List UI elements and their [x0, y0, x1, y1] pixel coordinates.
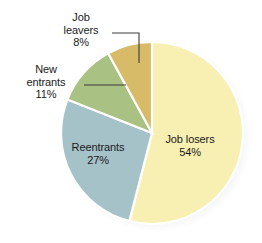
slice-label-job-leavers-name2: leavers [50, 24, 112, 37]
slice-label-job-losers: Job losers 54% [150, 133, 230, 158]
slice-label-job-losers-value: 54% [150, 146, 230, 159]
slice-label-reentrants-name: Reentrants [58, 141, 138, 154]
pie-chart-screenshot: Job leavers 8% New entrants 11% Reentran… [0, 0, 262, 243]
slice-label-new-entrants-name2: entrants [8, 76, 84, 89]
slice-label-job-losers-name: Job losers [150, 133, 230, 146]
slice-label-reentrants-value: 27% [58, 154, 138, 167]
pie-chart-graphic [0, 0, 262, 243]
slice-label-new-entrants-name: New [8, 63, 84, 76]
slice-label-job-leavers: Job leavers 8% [50, 11, 112, 49]
slice-label-job-leavers-value: 8% [50, 36, 112, 49]
slice-label-reentrants: Reentrants 27% [58, 141, 138, 166]
slice-label-new-entrants-value: 11% [8, 88, 84, 101]
slice-label-job-leavers-name: Job [50, 11, 112, 24]
slice-label-new-entrants: New entrants 11% [8, 63, 84, 101]
